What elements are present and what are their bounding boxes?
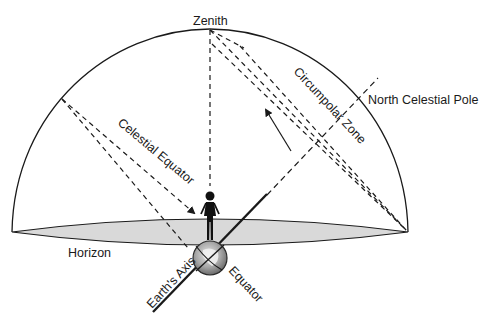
earth-globe-icon	[193, 241, 227, 275]
equator-label: Equator	[226, 263, 266, 305]
celestial-sphere-diagram: Zenith North Celestial Pole Circumpolar …	[0, 0, 488, 324]
circumpolar-zone-lines	[210, 30, 406, 230]
earths-axis-label: Earth's Axis	[144, 254, 199, 311]
zenith-label: Zenith	[193, 14, 228, 28]
horizon-label: Horizon	[68, 246, 111, 260]
circumpolar-zone-label: Circumpolar Zone	[291, 64, 369, 146]
rotation-arrow-icon	[266, 110, 291, 151]
north-celestial-pole-label: North Celestial Pole	[368, 93, 479, 107]
